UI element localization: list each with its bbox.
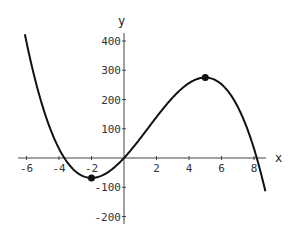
y-tick-label: -200 [95,211,122,224]
axes [18,33,266,224]
local-maximum-point [202,74,209,81]
y-tick-label: 100 [101,123,121,136]
y-tick-label: 200 [101,94,121,107]
y-tick-label: 300 [101,64,121,77]
axis-ticks: -6-4-22468400300200100-100-200 [20,35,257,224]
local-minimum-point [88,174,95,181]
x-tick-label: 8 [251,162,258,175]
cubic-function-plot: -6-4-22468400300200100-100-200 x y [0,0,296,238]
x-tick-label: 4 [186,162,193,175]
x-tick-label: 2 [153,162,160,175]
y-axis-label: y [118,14,125,28]
x-tick-label: 6 [218,162,225,175]
y-tick-label: 400 [101,35,121,48]
x-axis-label: x [275,151,282,165]
x-tick-label: -4 [52,162,66,175]
y-tick-label: -100 [95,181,122,194]
x-tick-label: -2 [85,162,98,175]
x-tick-label: -6 [20,162,33,175]
